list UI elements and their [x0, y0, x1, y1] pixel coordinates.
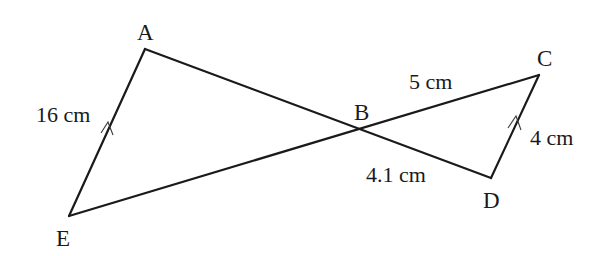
vertex-label-e: E [56, 226, 70, 251]
length-label-bd: 4.1 cm [366, 162, 426, 187]
length-label-cd: 4 cm [530, 125, 573, 150]
length-label-bc: 5 cm [409, 69, 452, 94]
vertex-label-b: B [354, 100, 369, 125]
vertex-label-a: A [137, 20, 154, 45]
segment-ec [69, 75, 539, 216]
vertex-label-c: C [537, 46, 552, 71]
geometry-diagram: A B C D E 16 cm 5 cm 4.1 cm 4 cm [0, 0, 616, 256]
diagram-canvas: A B C D E 16 cm 5 cm 4.1 cm 4 cm [0, 0, 616, 256]
length-label-ae: 16 cm [36, 102, 90, 127]
vertex-label-d: D [483, 188, 500, 213]
segment-ae [69, 49, 145, 216]
